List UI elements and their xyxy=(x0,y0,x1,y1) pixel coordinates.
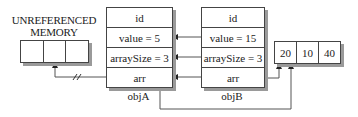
objB-arraysize-field: arraySize = 3 xyxy=(202,48,264,68)
array-cell xyxy=(44,41,67,62)
objB-box: id value = 15 arraySize = 3 arr xyxy=(201,7,265,88)
objB-arr-field: arr xyxy=(202,68,264,87)
array-cell: 20 xyxy=(275,42,297,63)
objB-id-field: id xyxy=(202,8,264,28)
objA-box: id value = 5 arraySize = 3 arr xyxy=(106,7,173,88)
title-line-2: MEMORY xyxy=(6,26,102,38)
unreferenced-array xyxy=(20,40,89,63)
shared-array: 20 10 40 xyxy=(274,41,341,64)
objA-id-field: id xyxy=(107,8,172,28)
array-cell: 10 xyxy=(297,42,319,63)
array-cell: 40 xyxy=(319,42,340,63)
objA-arraysize-field: arraySize = 3 xyxy=(107,48,172,68)
unreferenced-memory-title: UNREFERENCED MEMORY xyxy=(6,14,102,38)
objB-value-field: value = 15 xyxy=(202,28,264,48)
array-cell xyxy=(66,41,88,62)
objA-arr-field: arr xyxy=(107,68,172,87)
array-cell xyxy=(21,41,44,62)
objB-label: objB xyxy=(201,90,263,102)
objA-label: objA xyxy=(106,90,171,102)
title-line-1: UNREFERENCED xyxy=(6,14,102,26)
objA-value-field: value = 5 xyxy=(107,28,172,48)
